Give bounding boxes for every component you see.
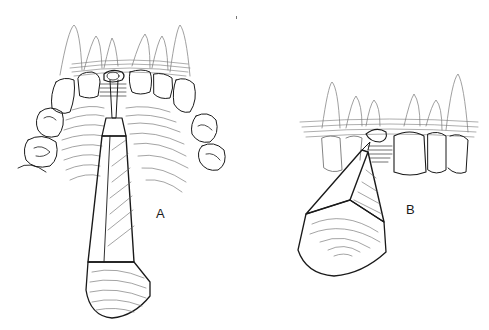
panel-b-drawing [298, 74, 478, 276]
socket-shading [100, 84, 126, 96]
stray-mark [236, 16, 237, 19]
panel-b-label: B [406, 202, 415, 217]
panel-a-label: A [156, 206, 165, 221]
dental-illustration: A B [0, 0, 489, 330]
palate-hatch [62, 106, 188, 192]
panel-a-drawing [18, 25, 225, 318]
handle-b-end-hatch [310, 219, 380, 256]
handle-a-end-hatch [90, 270, 146, 312]
panel-a-roots [60, 25, 190, 76]
panel-b-roots [322, 74, 468, 132]
panel-b-gum-hatch [300, 119, 478, 137]
illustration-svg [0, 0, 489, 330]
panel-b-socket-shading [368, 146, 392, 162]
